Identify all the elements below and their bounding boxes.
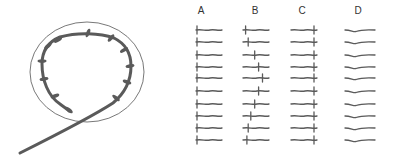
strand-line bbox=[196, 91, 222, 92]
column-label-a: A bbox=[198, 5, 205, 16]
strand-line bbox=[291, 30, 317, 31]
strand-line bbox=[243, 116, 269, 117]
strand-line bbox=[345, 104, 375, 106]
strand-line bbox=[196, 42, 222, 43]
strand-line bbox=[243, 91, 269, 92]
strand-line bbox=[291, 140, 317, 141]
strand-line bbox=[243, 128, 269, 129]
strand-line bbox=[196, 78, 222, 79]
strand-line bbox=[291, 91, 317, 92]
strand-line bbox=[345, 91, 375, 93]
strand-columns-panel: A B C D bbox=[196, 5, 375, 144]
strand-line bbox=[291, 42, 317, 43]
strand-line bbox=[291, 104, 317, 105]
strand-line bbox=[345, 128, 375, 130]
strand-line bbox=[291, 116, 317, 117]
loop-projection bbox=[39, 76, 48, 81]
strand-line bbox=[345, 55, 375, 57]
strand-line bbox=[291, 67, 317, 68]
strand-line bbox=[243, 78, 269, 79]
strand-line bbox=[345, 30, 375, 32]
strand-line bbox=[196, 30, 222, 31]
column-label-b: B bbox=[252, 5, 259, 16]
strand-line bbox=[345, 78, 375, 80]
strand-line bbox=[196, 116, 222, 117]
strand-line bbox=[243, 67, 269, 68]
column-label-d: D bbox=[354, 5, 361, 16]
loop-projection bbox=[38, 59, 47, 63]
strand-line bbox=[196, 128, 222, 129]
strand-line bbox=[345, 42, 375, 44]
strand-line bbox=[196, 67, 222, 68]
strand-line bbox=[243, 104, 269, 105]
strand-line bbox=[196, 104, 222, 105]
column-label-c: C bbox=[298, 5, 305, 16]
strand-column-a bbox=[196, 26, 222, 144]
loop-panel bbox=[20, 22, 144, 153]
strand-line bbox=[345, 67, 375, 69]
loop-projection bbox=[43, 42, 52, 51]
strand-column-b bbox=[243, 26, 269, 144]
strand-column-c bbox=[291, 26, 317, 144]
strand-line bbox=[243, 55, 269, 56]
strand-line bbox=[196, 55, 222, 56]
strand-line bbox=[243, 42, 269, 43]
diagram: A B C D bbox=[0, 0, 393, 159]
strand-line bbox=[345, 140, 375, 142]
loop-projection bbox=[125, 63, 134, 68]
strand-rows bbox=[196, 26, 375, 144]
strand-line bbox=[291, 55, 317, 56]
strand-line bbox=[345, 116, 375, 118]
loop-strand bbox=[20, 34, 131, 153]
strand-column-d bbox=[345, 30, 375, 142]
strand-line bbox=[291, 128, 317, 129]
strand-line bbox=[291, 78, 317, 79]
strand-line bbox=[196, 140, 222, 141]
strand-line bbox=[243, 30, 269, 31]
